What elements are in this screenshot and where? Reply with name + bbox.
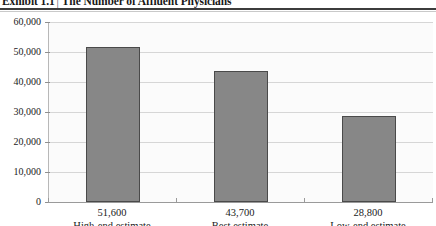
y-axis-tick-mark [45,52,50,53]
y-axis-tick-mark [45,82,50,83]
x-axis-line [48,202,432,203]
y-axis-tick-mark [45,142,50,143]
header-rule [0,8,436,10]
x-axis-category-label: High-end estimate [48,219,176,226]
exhibit-title-text: The Number of Affluent Physicians [62,0,232,7]
bar-chart: 010,00020,00030,00040,00050,00060,000 51… [0,14,436,226]
bar [214,71,268,202]
y-axis-tick-mark [45,22,50,23]
header-rule-secondary [0,11,436,12]
y-axis-tick-label: 60,000 [0,17,41,27]
bar-value-label: 28,800 [304,206,432,219]
x-axis-tick-mark [48,198,49,203]
x-axis-category: 28,800Low-end estimate [304,206,432,226]
x-axis-category: 51,600High-end estimate [48,206,176,226]
gridline [49,22,433,23]
x-axis-category-label: Low-end estimate [304,219,432,226]
y-axis-tick-label: 0 [0,197,41,207]
x-axis-tick-mark [432,198,433,203]
exhibit-number: Exhibit 1.1 [2,0,55,7]
y-axis-tick-label: 40,000 [0,77,41,87]
y-axis-tick-label: 10,000 [0,167,41,177]
y-axis-tick-label: 50,000 [0,47,41,57]
bar [86,47,140,202]
title-separator: | [55,0,62,8]
x-axis-category-label: Best estimate [176,219,304,226]
bar-value-label: 43,700 [176,206,304,219]
x-axis-category: 43,700Best estimate [176,206,304,226]
x-axis-tick-mark [304,198,305,203]
bar [342,116,396,202]
page-title: Exhibit 1.1|The Number of Affluent Physi… [0,0,436,8]
y-axis-tick-mark [45,172,50,173]
y-axis-tick-label: 30,000 [0,107,41,117]
bar-value-label: 51,600 [48,206,176,219]
x-axis-tick-mark [176,198,177,203]
y-axis-tick-label: 20,000 [0,137,41,147]
y-axis-tick-mark [45,112,50,113]
plot-area: 010,00020,00030,00040,00050,00060,000 [48,22,433,202]
